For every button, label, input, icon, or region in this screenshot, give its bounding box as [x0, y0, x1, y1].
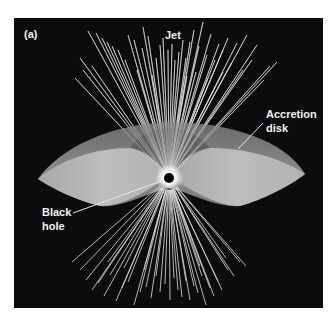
- panel-label: (a): [24, 28, 37, 41]
- black-hole-icon: [164, 173, 174, 183]
- accretion-disk-label-line2: disk: [266, 122, 288, 135]
- black-hole-label-line1: Black: [42, 206, 71, 219]
- black-hole-diagram: [0, 0, 333, 323]
- jet-label: Jet: [164, 29, 182, 42]
- accretion-disk-label-line1: Accretion: [266, 108, 317, 121]
- black-hole-label-line2: hole: [42, 220, 65, 233]
- figure-panel: (a) Jet Accretion disk Black hole: [0, 0, 333, 323]
